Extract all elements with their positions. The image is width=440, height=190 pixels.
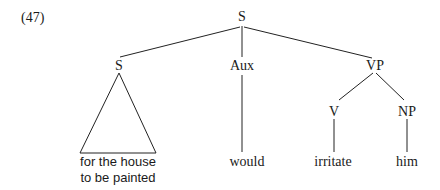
edge-root-to-vp bbox=[244, 27, 372, 58]
example-number: (47) bbox=[21, 10, 45, 26]
edge-vp-to-v bbox=[339, 73, 373, 100]
triangle-abbreviation bbox=[80, 73, 156, 153]
node-vp: VP bbox=[366, 58, 384, 73]
node-v: V bbox=[329, 104, 339, 119]
edge-root-to-subject bbox=[120, 27, 240, 57]
node-aux: Aux bbox=[230, 58, 254, 73]
edge-vp-to-np bbox=[376, 73, 404, 100]
leaf-subject-line2: to be painted bbox=[80, 170, 155, 185]
node-np: NP bbox=[398, 104, 416, 119]
node-subject-s: S bbox=[115, 58, 123, 73]
leaf-v: irritate bbox=[314, 154, 351, 169]
leaf-aux: would bbox=[230, 154, 265, 169]
node-root-s: S bbox=[238, 9, 246, 24]
leaf-np: him bbox=[396, 154, 418, 169]
syntax-tree-diagram: (47) S S for the house to be painted Aux… bbox=[0, 0, 440, 190]
leaf-subject-line1: for the house bbox=[80, 154, 156, 169]
